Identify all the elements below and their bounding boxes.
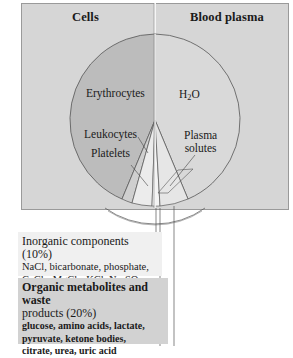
organic-line2: pyruvate, ketone bodies,: [22, 333, 164, 346]
erythrocytes-label: Erythrocytes: [86, 87, 145, 100]
leukocytes-label: Leukocytes: [84, 128, 137, 141]
organic-metabolites-box: Organic metabolites and waste products (…: [18, 278, 168, 344]
organic-title-line1: Organic metabolites and waste: [22, 281, 164, 307]
water-label: H2O: [179, 88, 200, 101]
organic-line3: citrate, urea, uric acid: [22, 345, 164, 358]
organic-line1: glucose, amino acids, lactate,: [22, 320, 164, 333]
platelets-label: Platelets: [91, 147, 130, 160]
plasma-solutes-label: Plasma solutes: [184, 129, 217, 155]
inorganic-title: Inorganic components (10%): [22, 235, 158, 261]
organic-title-line2: products (20%): [22, 307, 164, 320]
inorganic-components-box: Inorganic components (10%) NaCl, bicarbo…: [18, 232, 162, 276]
inorganic-line1: NaCl, bicarbonate, phosphate,: [22, 261, 158, 274]
cells-header: Cells: [72, 10, 99, 25]
blood-plasma-header: Blood plasma: [190, 10, 264, 25]
